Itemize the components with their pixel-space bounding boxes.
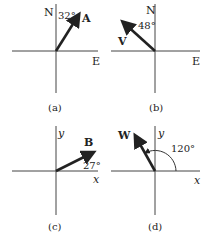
vector-label: A [81, 12, 91, 25]
axis-label-n: N [146, 4, 156, 17]
panel-d: y W 120° x (d) [111, 126, 201, 232]
vector-label: W [117, 129, 131, 142]
axis-label-y: y [157, 127, 165, 140]
panel-caption: (a) [48, 102, 62, 113]
panel-a: N 32° A E (a) [12, 4, 100, 113]
axis-label-n: N [44, 6, 54, 19]
panel-caption: (c) [48, 221, 62, 232]
angle-label: 48° [138, 20, 156, 31]
axis-label-x: x [93, 173, 100, 186]
angle-label: 120° [171, 143, 195, 154]
angle-label: 27° [83, 160, 101, 171]
vector-w-arrow [136, 137, 155, 171]
panel-b: N 48° V E (b) [111, 4, 200, 113]
vector-a-arrow [56, 16, 78, 51]
angle-label: 32° [58, 10, 76, 21]
panel-c: y B 27° x (c) [12, 126, 101, 232]
vector-label: B [84, 136, 93, 149]
axis-label-e: E [192, 55, 200, 68]
axis-label-x: x [194, 174, 201, 187]
panel-caption: (d) [148, 221, 162, 232]
vector-diagram: N 32° A E (a) N 48° V E (b) y B 27° x (c… [0, 0, 212, 239]
axis-label-y: y [57, 127, 65, 140]
axis-label-e: E [92, 55, 100, 68]
panel-caption: (b) [149, 102, 163, 113]
vector-label: V [117, 35, 127, 48]
